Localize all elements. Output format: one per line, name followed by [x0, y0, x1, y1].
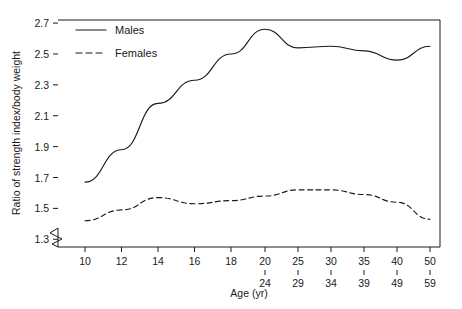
x-tick-label-secondary: 39	[358, 277, 370, 289]
x-tick-label-secondary: 59	[424, 277, 436, 289]
series-line-females	[85, 190, 430, 221]
y-axis-break-icon	[50, 228, 62, 247]
legend-label-males: Males	[115, 24, 145, 36]
y-tick-label: 1.7	[34, 172, 49, 184]
x-tick-label-primary: 40	[391, 255, 403, 267]
legend-label-females: Females	[115, 47, 158, 59]
x-tick-label-primary: 20	[259, 255, 271, 267]
legend: Males Females	[76, 24, 158, 59]
chart-figure: 1.31.51.71.92.12.32.52.7 101214161820242…	[0, 0, 462, 309]
y-tick-label: 2.5	[34, 48, 49, 60]
x-tick-label-secondary: 34	[325, 277, 337, 289]
y-tick-label: 2.1	[34, 110, 49, 122]
x-tick-label-primary: 14	[152, 255, 164, 267]
x-tick-label-primary: 50	[424, 255, 436, 267]
y-tick-label: 1.3	[34, 233, 49, 245]
y-axis-title: Ratio of strength index/body weight	[10, 51, 22, 215]
x-tick-label-primary: 35	[358, 255, 370, 267]
x-tick-label-secondary: 49	[391, 277, 403, 289]
x-tick-label-primary: 16	[189, 255, 201, 267]
y-tick-label: 2.7	[34, 17, 49, 29]
y-axis-ticks: 1.31.51.71.92.12.32.52.7	[34, 17, 58, 245]
x-tick-label-primary: 25	[292, 255, 304, 267]
x-tick-label-primary: 10	[79, 255, 91, 267]
x-axis-ticks: 1012141618202425293034353940495059	[79, 247, 436, 289]
x-tick-label-primary: 12	[116, 255, 128, 267]
x-tick-label-secondary: 29	[292, 277, 304, 289]
x-axis-title: Age (yr)	[230, 287, 267, 299]
y-tick-label: 1.9	[34, 141, 49, 153]
x-tick-label-primary: 18	[225, 255, 237, 267]
x-tick-label-primary: 30	[325, 255, 337, 267]
y-tick-label: 2.3	[34, 79, 49, 91]
y-tick-label: 1.5	[34, 202, 49, 214]
